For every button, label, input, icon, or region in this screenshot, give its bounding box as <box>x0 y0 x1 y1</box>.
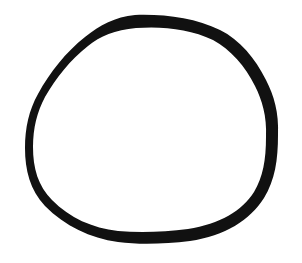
ring-shape <box>25 15 278 244</box>
ring-icon <box>0 0 302 263</box>
drawing-canvas <box>0 0 302 263</box>
